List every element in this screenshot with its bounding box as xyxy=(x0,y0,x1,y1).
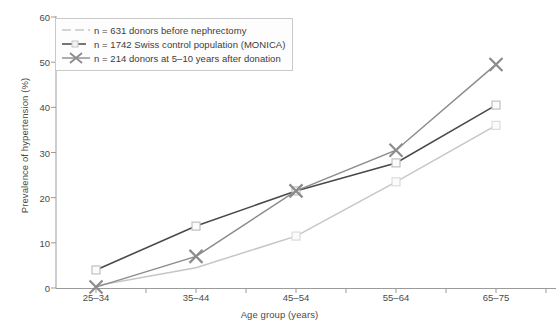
data-point-marker xyxy=(390,144,403,157)
data-point-marker xyxy=(92,266,100,274)
data-point-marker xyxy=(492,121,500,129)
data-point-marker xyxy=(492,101,500,109)
series-layer xyxy=(90,58,503,294)
data-point-marker xyxy=(190,250,203,263)
data-series xyxy=(96,121,500,285)
data-point-marker xyxy=(490,58,503,71)
legend-label: n = 1742 Swiss control population (MONIC… xyxy=(94,39,285,50)
legend-label: n = 214 donors at 5–10 years after donat… xyxy=(94,53,281,64)
data-point-marker xyxy=(392,178,400,186)
legend-item-donors-after[interactable]: n = 214 donors at 5–10 years after donat… xyxy=(61,51,285,65)
data-point-marker xyxy=(392,159,400,167)
dashed-light-line-key xyxy=(61,23,91,37)
chart-legend: n = 631 donors before nephrectomy n = 17… xyxy=(55,18,293,71)
legend-label: n = 631 donors before nephrectomy xyxy=(94,25,246,36)
data-series xyxy=(90,58,503,294)
legend-item-monica[interactable]: n = 1742 Swiss control population (MONIC… xyxy=(61,37,285,51)
legend-item-donors-before[interactable]: n = 631 donors before nephrectomy xyxy=(61,23,285,37)
gray-line-x-key xyxy=(61,51,91,65)
dark-line-square-key xyxy=(61,37,91,51)
data-point-marker xyxy=(192,222,200,230)
chart-figure: Prevalence of hypertension (%) 0 10 20 3… xyxy=(0,0,559,332)
data-point-marker xyxy=(292,232,300,240)
data-series xyxy=(92,101,500,274)
